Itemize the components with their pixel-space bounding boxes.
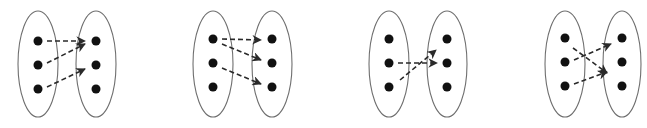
mapping-diagram-2 (193, 11, 292, 117)
codomain-element-dot (92, 37, 101, 46)
mapping-diagrams-canvas (0, 0, 647, 128)
dashed-arrow-icon (222, 44, 261, 60)
domain-element-dot (209, 59, 218, 68)
domain-element-dot (34, 61, 43, 70)
dashed-arrow-icon (574, 44, 611, 60)
codomain-element-dot (92, 85, 101, 94)
domain-element-dot (561, 82, 570, 91)
codomain-element-dot (618, 58, 627, 67)
mapping-diagram-3 (369, 11, 467, 117)
domain-element-dot (385, 35, 394, 44)
domain-element-dot (209, 35, 218, 44)
mapping-diagram-1 (18, 11, 116, 117)
codomain-element-dot (443, 59, 452, 68)
codomain-element-dot (618, 82, 627, 91)
codomain-element-dot (92, 61, 101, 70)
dashed-arrow-icon (222, 68, 261, 84)
domain-element-dot (561, 58, 570, 67)
domain-element-dot (209, 83, 218, 92)
dashed-arrow-icon (47, 69, 85, 87)
codomain-element-dot (268, 59, 277, 68)
dashed-arrow-icon (47, 44, 85, 63)
codomain-element-dot (618, 34, 627, 43)
dashed-arrow-icon (400, 50, 436, 80)
domain-element-dot (385, 59, 394, 68)
domain-element-dot (561, 34, 570, 43)
domain-element-dot (34, 85, 43, 94)
codomain-element-dot (443, 83, 452, 92)
domain-element-dot (34, 37, 43, 46)
domain-element-dot (385, 83, 394, 92)
codomain-element-dot (443, 35, 452, 44)
dashed-arrow-icon (222, 39, 261, 40)
mapping-diagram-4 (545, 11, 641, 117)
codomain-element-dot (268, 35, 277, 44)
dashed-arrow-icon (573, 48, 607, 73)
dashed-arrow-icon (574, 72, 607, 84)
codomain-element-dot (268, 83, 277, 92)
